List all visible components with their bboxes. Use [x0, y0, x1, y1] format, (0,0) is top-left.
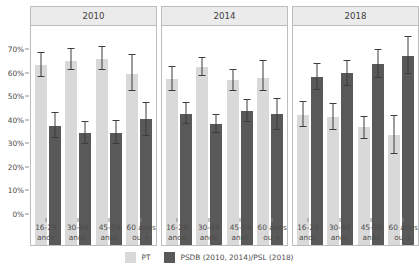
- plot-area: [292, 26, 419, 246]
- bar-group: [124, 26, 154, 245]
- plot-inner: [293, 26, 418, 245]
- error-bar: [363, 117, 364, 140]
- error-bar: [216, 115, 217, 134]
- x-axis-tick-label: 16-29anos: [292, 218, 324, 248]
- x-axis-tick-label: 45-59anos: [356, 218, 388, 248]
- error-bar-cap-lower: [142, 135, 149, 136]
- bar-slot: [401, 26, 415, 245]
- y-axis-tick-mark: [25, 49, 29, 50]
- panel-2014: 2014: [161, 6, 288, 246]
- chart-legend: PTPSDB (2010, 2014)/PSL (2018): [0, 252, 419, 263]
- y-axis-tick-label: 40%: [8, 115, 24, 124]
- panels-container: 201020142018: [30, 6, 419, 246]
- error-bar-cap-lower: [213, 132, 220, 133]
- x-axis-tick-label-line: 16-29: [30, 223, 62, 233]
- x-axis-tick-label-line: anos: [30, 233, 62, 243]
- error-bar: [276, 99, 277, 131]
- panel-2018: 2018: [292, 6, 419, 246]
- legend-swatch: [164, 252, 175, 263]
- x-axis-tick-mark: [307, 218, 308, 222]
- x-axis-tick-mark: [208, 218, 209, 222]
- x-axis-tick-label-line: 16-29: [292, 223, 324, 233]
- grouped-bar-chart: 0%10%20%30%40%50%60%70% 201020142018 16-…: [0, 0, 419, 278]
- x-axis-tick-label: 60 anosou +: [125, 218, 157, 248]
- bar-group: [386, 26, 416, 245]
- y-axis-tick-mark: [25, 166, 29, 167]
- bar-slot: [48, 26, 62, 245]
- legend-item[interactable]: PT: [125, 252, 150, 263]
- x-axis-tick-label-line: anos: [94, 233, 126, 243]
- x-axis-tick-label-line: 45-59: [356, 223, 388, 233]
- bar-slot: [125, 26, 139, 245]
- x-axis-tick-label-line: anos: [161, 233, 193, 243]
- error-bar-cap-lower: [300, 126, 307, 127]
- x-axis-tick-label-line: anos: [324, 233, 356, 243]
- error-bar: [246, 100, 247, 122]
- bar-group: [295, 26, 325, 245]
- bar-slot: [270, 26, 284, 245]
- bar-slot: [195, 26, 209, 245]
- x-axis-tick-mark: [371, 218, 372, 222]
- bar-groups: [295, 26, 416, 245]
- bar-group: [194, 26, 224, 245]
- x-axis-tick-label-line: 45-59: [225, 223, 257, 233]
- error-bar-cap-lower: [390, 153, 397, 154]
- y-axis-tick-label: 10%: [8, 186, 24, 195]
- error-bar-cap-upper: [169, 66, 176, 67]
- legend-item[interactable]: PSDB (2010, 2014)/PSL (2018): [164, 252, 293, 263]
- y-axis-tick-mark: [25, 214, 29, 215]
- error-bar: [186, 103, 187, 123]
- error-bar: [85, 122, 86, 144]
- error-bar-cap-upper: [390, 115, 397, 116]
- y-axis-tick-label: 70%: [8, 45, 24, 54]
- error-bar: [317, 64, 318, 90]
- y-axis-tick-label: 50%: [8, 92, 24, 101]
- panel-header-label: 2018: [292, 6, 419, 26]
- x-axis-panel: 16-29anos30-44anos45-59anos60 anosou +: [292, 218, 419, 248]
- error-bar-cap-upper: [404, 36, 411, 37]
- error-bar-cap-upper: [374, 49, 381, 50]
- y-axis-tick-label: 20%: [8, 162, 24, 171]
- bar-slot: [371, 26, 385, 245]
- error-bar-cap-lower: [273, 129, 280, 130]
- x-axis-tick-label-line: anos: [193, 233, 225, 243]
- x-axis-tick-label-line: anos: [292, 233, 324, 243]
- bar-slot: [310, 26, 324, 245]
- error-bar-cap-lower: [82, 143, 89, 144]
- bar-slot: [109, 26, 123, 245]
- error-bar-cap-lower: [330, 129, 337, 130]
- x-axis-tick-mark: [339, 218, 340, 222]
- x-axis-tick-label-line: anos: [225, 233, 257, 243]
- error-bar-cap-lower: [183, 123, 190, 124]
- error-bar: [131, 55, 132, 91]
- x-axis-tick-label-line: 60 anos: [256, 223, 288, 233]
- y-axis-tick-mark: [25, 72, 29, 73]
- error-bar-cap-upper: [199, 57, 206, 58]
- error-bar-cap-upper: [300, 101, 307, 102]
- bar-slot: [256, 26, 270, 245]
- x-axis-tick-label-line: anos: [356, 233, 388, 243]
- plot-area: [161, 26, 288, 246]
- bar-slot: [78, 26, 92, 245]
- x-axis-tick-label: 30-44anos: [324, 218, 356, 248]
- x-axis-panel: 16-29anos30-44anos45-59anos60 anosou +: [161, 218, 288, 248]
- error-bar: [262, 61, 263, 91]
- error-bar: [347, 61, 348, 87]
- error-bar-cap-lower: [243, 121, 250, 122]
- bar-slot: [165, 26, 179, 245]
- y-axis-tick-mark: [25, 119, 29, 120]
- bar-group: [255, 26, 285, 245]
- bar-group: [94, 26, 124, 245]
- panel-2010: 2010: [30, 6, 157, 246]
- x-axis-tick-label-line: 60 anos: [125, 223, 157, 233]
- bar-group: [33, 26, 63, 245]
- error-bar: [115, 121, 116, 144]
- x-axis-tick-label: 45-59anos: [225, 218, 257, 248]
- error-bar-cap-lower: [314, 89, 321, 90]
- bar[interactable]: [402, 56, 414, 245]
- x-axis-tick-mark: [240, 218, 241, 222]
- x-axis-tick-label: 60 anosou +: [387, 218, 419, 248]
- error-bar-cap-lower: [259, 90, 266, 91]
- error-bar-cap-lower: [360, 138, 367, 139]
- x-axis-tick-label-line: ou +: [256, 233, 288, 243]
